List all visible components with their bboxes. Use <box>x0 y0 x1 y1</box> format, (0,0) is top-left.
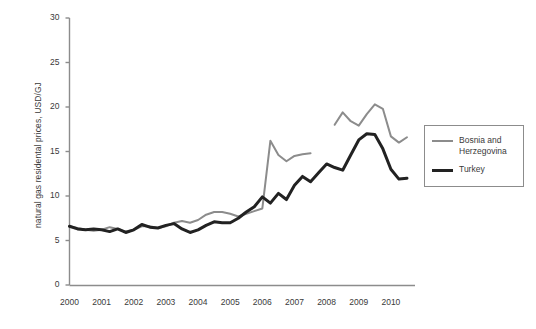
chart-container: natural gas residental prices, USD/GJ 05… <box>0 0 536 329</box>
series-line-turkey <box>70 134 407 233</box>
legend-item-bosnia-and-herzegovina: Bosnia and Herzegovina <box>432 135 507 156</box>
axis-lines <box>70 18 416 286</box>
legend-line-swatch-icon <box>432 140 453 142</box>
legend-item-label: Bosnia and Herzegovina <box>459 135 507 156</box>
y-axis-tick-label: 25 <box>38 57 60 67</box>
legend-item-label: Turkey <box>459 164 485 175</box>
series-line-bosnia-and-herzegovina <box>70 141 311 232</box>
x-axis-tick-label: 2010 <box>371 297 411 307</box>
y-axis-tick-label: 10 <box>38 190 60 200</box>
y-axis-tick-label: 20 <box>38 101 60 111</box>
y-axis-tick-label: 0 <box>38 279 60 289</box>
chart-legend: Bosnia and Herzegovina Turkey <box>424 125 524 187</box>
legend-item-turkey: Turkey <box>432 164 485 175</box>
y-axis-tick-label: 30 <box>38 12 60 22</box>
data-series-group <box>70 104 407 232</box>
series-line-bosnia-and-herzegovina-cont <box>335 104 407 142</box>
y-axis-tick-label: 5 <box>38 235 60 245</box>
y-axis-tick-label: 15 <box>38 146 60 156</box>
legend-line-swatch-icon <box>432 169 453 172</box>
